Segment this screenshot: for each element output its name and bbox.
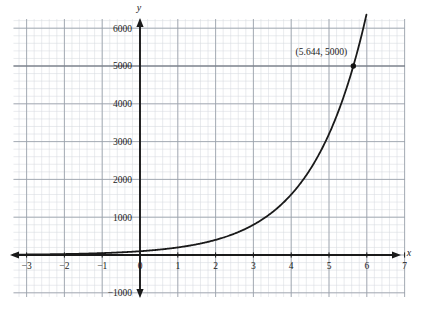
point-annotation-label: (5.644, 5000) (296, 47, 347, 58)
x-tick-label: 7 (402, 261, 407, 271)
x-tick-label: 1 (175, 261, 180, 271)
y-tick-label: 3000 (113, 137, 132, 147)
y-axis-label: y (136, 2, 142, 13)
x-tick-label: 5 (327, 261, 332, 271)
y-tick-label: 2000 (113, 175, 132, 185)
graph-figure: −3−2−101234567 −100010002000300040005000… (0, 0, 425, 316)
x-tick-label: −2 (59, 261, 69, 271)
x-tick-label: 0 (138, 261, 143, 271)
x-tick-label: 2 (213, 261, 218, 271)
coordinate-plane: −3−2−101234567 −100010002000300040005000… (0, 0, 425, 316)
y-tick-label: −1000 (108, 288, 133, 298)
x-axis-label: x (406, 247, 412, 258)
x-tick-label: 4 (289, 261, 294, 271)
x-tick-label: −3 (22, 261, 32, 271)
annotated-point-marker (351, 63, 356, 68)
y-tick-label: 6000 (113, 24, 132, 34)
x-tick-label: 6 (364, 261, 369, 271)
y-tick-label: 1000 (113, 213, 132, 223)
x-tick-label: 3 (251, 261, 256, 271)
y-tick-label: 5000 (113, 61, 132, 71)
y-tick-label: 4000 (113, 99, 132, 109)
x-tick-label: −1 (97, 261, 107, 271)
